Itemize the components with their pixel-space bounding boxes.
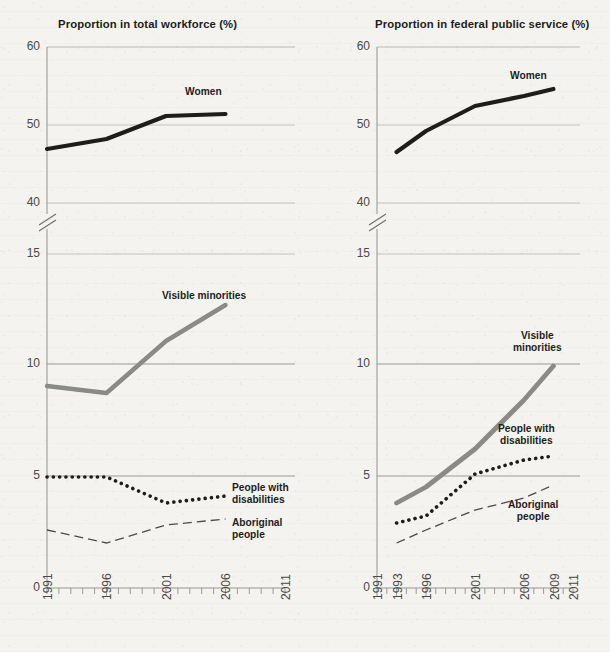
series-label-disabilities-line2: disabilities [232, 494, 285, 505]
axis-break-mark-1 [369, 214, 386, 225]
series-label-aboriginal-line2: people [232, 529, 265, 540]
y-tick-label-40: 40 [338, 195, 370, 209]
x-tick-label-2001: 2001 [160, 573, 174, 600]
x-tick-label-2006: 2006 [518, 573, 532, 600]
x-tick-label-2009: 2009 [548, 573, 562, 600]
x-tick-label-2011: 2011 [279, 574, 293, 600]
series-label-visible-minorities-line2: minorities [513, 342, 562, 353]
series-line-visible-minorities [47, 305, 226, 393]
series-line-aboriginal-people [47, 519, 226, 543]
y-tick-label-0: 0 [8, 580, 40, 594]
series-label-disabilities-line2: disabilities [500, 435, 553, 446]
y-tick-label-60: 60 [8, 39, 40, 53]
series-line-women [397, 89, 554, 152]
series-label-women: Women [185, 86, 222, 98]
axis-break-mark-1 [39, 214, 56, 225]
series-label-visible-minorities: Visible minorities [162, 290, 246, 302]
x-tick-label-1991: 1991 [41, 573, 55, 600]
y-tick-label-60: 60 [338, 39, 370, 53]
chart-svg-total-workforce [0, 0, 330, 652]
x-tick-label-1996: 1996 [420, 573, 434, 600]
series-label-visible-minorities-line1: Visible [521, 330, 554, 341]
series-label-aboriginal-people: Aboriginal people [232, 517, 282, 540]
x-tick-label-2006: 2006 [219, 573, 233, 600]
x-tick-label-2011: 2011 [567, 574, 581, 600]
series-label-aboriginal-people: Aboriginal people [508, 499, 558, 522]
series-label-aboriginal-line1: Aboriginal [232, 517, 282, 528]
series-label-people-with-disabilities: People with disabilities [232, 482, 289, 505]
y-tick-label-40: 40 [8, 195, 40, 209]
series-label-aboriginal-line2: people [517, 511, 550, 522]
series-label-disabilities-line1: People with [232, 482, 289, 493]
y-tick-label-5: 5 [8, 468, 40, 482]
chart-svg-federal-public-service [330, 0, 610, 652]
series-label-disabilities-line1: People with [498, 423, 555, 434]
y-tick-label-15: 15 [8, 246, 40, 260]
series-label-women: Women [510, 70, 547, 82]
y-tick-label-0: 0 [338, 580, 370, 594]
y-tick-label-15: 15 [338, 246, 370, 260]
series-line-people-with-disabilities [47, 477, 226, 503]
x-tick-label-1991: 1991 [371, 573, 385, 600]
y-tick-label-10: 10 [338, 356, 370, 370]
x-tick-label-1996: 1996 [100, 573, 114, 600]
series-label-aboriginal-line1: Aboriginal [508, 499, 558, 510]
x-tick-label-1993: 1993 [391, 573, 405, 600]
x-tick-label-2001: 2001 [469, 573, 483, 600]
series-line-women [47, 114, 226, 149]
y-tick-label-5: 5 [338, 468, 370, 482]
series-label-visible-minorities: Visible minorities [513, 330, 562, 353]
y-tick-label-10: 10 [8, 356, 40, 370]
y-tick-label-50: 50 [338, 117, 370, 131]
y-tick-label-50: 50 [8, 117, 40, 131]
series-label-people-with-disabilities: People with disabilities [498, 423, 555, 446]
